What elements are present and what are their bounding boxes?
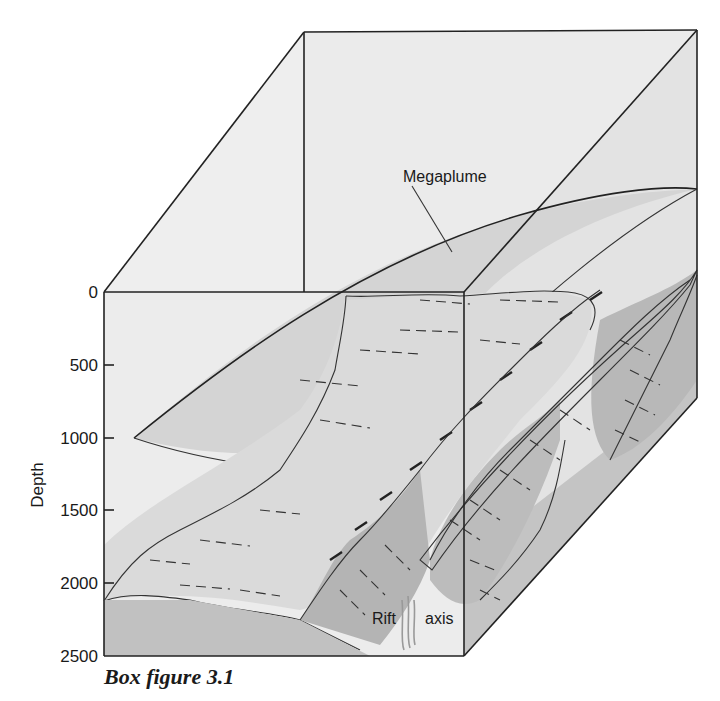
depth-axis-label: Depth <box>28 462 47 507</box>
tick-label-1500: 1500 <box>60 501 98 520</box>
axis-label: axis <box>425 610 453 627</box>
depth-axis: 0 500 1000 1500 2000 2500 Depth <box>28 283 114 666</box>
tick-label-500: 500 <box>70 356 98 375</box>
tick-label-2500: 2500 <box>60 647 98 666</box>
megaplume-label: Megaplume <box>403 168 487 185</box>
tick-label-2000: 2000 <box>60 574 98 593</box>
tick-label-1000: 1000 <box>60 429 98 448</box>
figure-caption: Box figure 3.1 <box>104 664 234 690</box>
block-diagram: 0 500 1000 1500 2000 2500 Depth Megaplum… <box>0 0 720 701</box>
rift-label: Rift <box>372 610 397 627</box>
tick-label-0: 0 <box>89 283 98 302</box>
